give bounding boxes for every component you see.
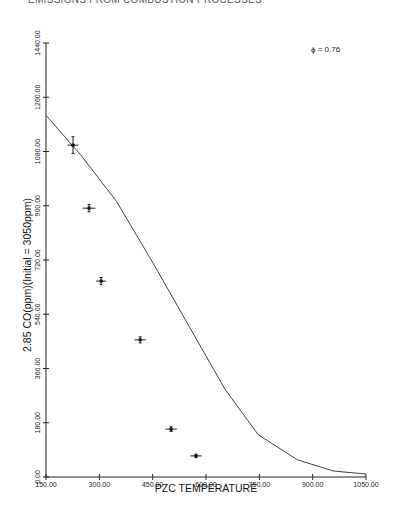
y-axis-ticks: 0.00180.00360.00540.00720.00900.001080.0…	[34, 30, 49, 484]
y-tick-label: 180.00	[34, 412, 41, 434]
x-tick-label: 900.00	[302, 481, 324, 488]
data-point	[135, 337, 146, 343]
y-tick-label: 540.00	[34, 303, 41, 325]
data-point	[83, 205, 96, 212]
data-point	[96, 277, 106, 284]
chart: 150.00300.00450.00600.00750.00900.001050…	[0, 0, 406, 516]
y-tick-label: 1080.00	[34, 139, 41, 164]
axes	[46, 43, 366, 477]
point-marker	[87, 206, 91, 210]
y-tick-label: 900.00	[34, 195, 41, 217]
point-marker	[194, 454, 198, 458]
y-tick-label: 360.00	[34, 358, 41, 380]
point-marker	[99, 279, 103, 283]
data-point	[190, 454, 201, 458]
data-point	[165, 427, 176, 432]
y-tick-label: 1260.00	[34, 84, 41, 109]
point-marker	[138, 338, 142, 342]
data-points	[68, 137, 202, 458]
y-axis-title: 2.85 CO(ppm)(Initial = 3050ppm)	[21, 198, 33, 352]
model-line	[46, 115, 366, 474]
y-tick-label: 0.00	[34, 470, 41, 484]
x-axis-title: PZC TEMPERATURE	[155, 482, 257, 494]
model-curve	[46, 115, 366, 474]
point-marker	[169, 427, 173, 431]
x-tick-label: 300.00	[89, 481, 111, 488]
phi-annotation: ϕ = 0.76	[311, 45, 341, 54]
point-marker	[71, 143, 75, 147]
y-tick-label: 720.00	[34, 249, 41, 271]
x-tick-label: 1050.00	[353, 481, 378, 488]
y-tick-label: 1440.00	[34, 30, 41, 55]
